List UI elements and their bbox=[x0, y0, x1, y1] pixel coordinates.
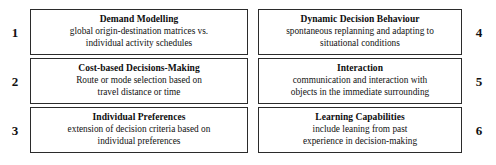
box-number-4: 4 bbox=[462, 26, 496, 39]
concept-box-1-description-line-2: individual activity schedules bbox=[70, 38, 208, 50]
concept-box-1-description-line-1: global origin-destination matrices vs. bbox=[70, 26, 208, 38]
concept-box-2[interactable]: Cost-based Decisions-Making Route or mod… bbox=[30, 58, 248, 104]
concept-box-3-title: Individual Preferences bbox=[93, 112, 186, 124]
box-number-6: 6 bbox=[462, 124, 496, 137]
concept-box-2-description: Route or mode selection based on travel … bbox=[76, 75, 202, 99]
concept-box-6-description-line-2: experience in decision-making bbox=[303, 136, 417, 148]
concept-box-4-title: Dynamic Decision Behaviour bbox=[301, 14, 420, 26]
concept-box-2-description-line-1: Route or mode selection based on bbox=[76, 75, 202, 87]
concept-box-4-description-line-1: spontaneous replanning and adapting to bbox=[286, 26, 434, 38]
diagram-cell-4: Dynamic Decision Behaviour spontaneous r… bbox=[248, 9, 496, 55]
concept-box-5[interactable]: Interaction communication and interactio… bbox=[258, 58, 462, 104]
concept-box-6-title: Learning Capabilities bbox=[315, 112, 404, 124]
numbered-box-grid-diagram: 1 Demand Modelling global origin-destina… bbox=[0, 0, 496, 165]
concept-box-3-description-line-2: individual preferences bbox=[68, 136, 211, 148]
concept-box-1[interactable]: Demand Modelling global origin-destinati… bbox=[30, 9, 248, 55]
concept-box-4-description: spontaneous replanning and adapting to s… bbox=[286, 26, 434, 50]
concept-box-6-description-line-1: include leaning from past bbox=[303, 124, 417, 136]
concept-box-1-title: Demand Modelling bbox=[100, 14, 179, 26]
concept-box-4[interactable]: Dynamic Decision Behaviour spontaneous r… bbox=[258, 9, 462, 55]
concept-box-2-description-line-2: travel distance or time bbox=[76, 87, 202, 99]
box-number-5: 5 bbox=[462, 75, 496, 88]
concept-box-5-description-line-1: communication and interaction with bbox=[291, 75, 429, 87]
diagram-row-1: 1 Demand Modelling global origin-destina… bbox=[0, 9, 496, 55]
diagram-cell-6: Learning Capabilities include leaning fr… bbox=[248, 107, 496, 153]
concept-box-3-description-line-1: extension of decision criteria based on bbox=[68, 124, 211, 136]
concept-box-3-description: extension of decision criteria based on … bbox=[68, 124, 211, 148]
concept-box-6-description: include leaning from past experience in … bbox=[303, 124, 417, 148]
diagram-cell-1: 1 Demand Modelling global origin-destina… bbox=[0, 9, 248, 55]
concept-box-1-description: global origin-destination matrices vs. i… bbox=[70, 26, 208, 50]
concept-box-5-description-line-2: objects in the immediate surrounding bbox=[291, 87, 429, 99]
diagram-cell-3: 3 Individual Preferences extension of de… bbox=[0, 107, 248, 153]
box-number-2: 2 bbox=[0, 75, 30, 88]
concept-box-6[interactable]: Learning Capabilities include leaning fr… bbox=[258, 107, 462, 153]
diagram-cell-5: Interaction communication and interactio… bbox=[248, 58, 496, 104]
diagram-cell-2: 2 Cost-based Decisions-Making Route or m… bbox=[0, 58, 248, 104]
diagram-row-3: 3 Individual Preferences extension of de… bbox=[0, 107, 496, 153]
box-number-3: 3 bbox=[0, 124, 30, 137]
diagram-row-2: 2 Cost-based Decisions-Making Route or m… bbox=[0, 58, 496, 104]
concept-box-3[interactable]: Individual Preferences extension of deci… bbox=[30, 107, 248, 153]
concept-box-5-description: communication and interaction with objec… bbox=[291, 75, 429, 99]
concept-box-4-description-line-2: situational conditions bbox=[286, 38, 434, 50]
box-number-1: 1 bbox=[0, 26, 30, 39]
concept-box-5-title: Interaction bbox=[337, 63, 383, 75]
concept-box-2-title: Cost-based Decisions-Making bbox=[78, 63, 199, 75]
